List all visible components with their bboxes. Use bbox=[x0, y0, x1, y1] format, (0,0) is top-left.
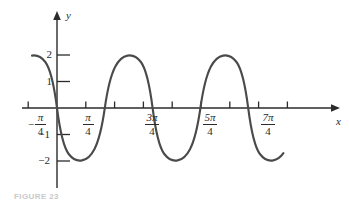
fraction-numerator: 3π bbox=[145, 112, 158, 124]
fraction-denominator: 4 bbox=[37, 125, 45, 137]
x-tick-label-pi-over-4: π 4 bbox=[76, 112, 100, 137]
y-axis-label: y bbox=[66, 10, 71, 21]
x-axis-arrow-icon bbox=[331, 104, 340, 112]
x-axis-major-ticks bbox=[28, 102, 258, 109]
x-axis-label: x bbox=[336, 116, 341, 127]
x-tick-label-7pi-over-4: 7π 4 bbox=[253, 112, 283, 137]
x-tick-label-5pi-over-4: 5π 4 bbox=[195, 112, 225, 137]
fraction-denominator: 4 bbox=[206, 125, 214, 137]
fraction-numerator: 7π bbox=[261, 112, 274, 124]
fraction: 7π 4 bbox=[261, 112, 274, 137]
x-tick-label-minus-pi-over-4: − π 4 bbox=[22, 112, 52, 137]
fraction-denominator: 4 bbox=[264, 125, 272, 137]
figure-caption: FIGURE 23 bbox=[14, 193, 59, 200]
fraction-numerator: 5π bbox=[203, 112, 216, 124]
figure-container: y x 2 1 −1 −2 − π 4 π 4 3π 4 5π 4 bbox=[0, 0, 349, 204]
x-tick-label-3pi-over-4: 3π 4 bbox=[137, 112, 167, 137]
fraction-numerator: π bbox=[84, 112, 92, 124]
fraction: π 4 bbox=[83, 112, 94, 137]
fraction-denominator: 4 bbox=[84, 125, 92, 137]
y-tick-label-2: 2 bbox=[30, 49, 52, 60]
y-tick-label-1: 1 bbox=[30, 76, 52, 87]
fraction: 3π 4 bbox=[145, 112, 158, 137]
fraction: 5π 4 bbox=[203, 112, 216, 137]
fraction: π 4 bbox=[35, 112, 46, 137]
minus-sign: − bbox=[28, 119, 34, 130]
fraction-denominator: 4 bbox=[148, 125, 156, 137]
y-axis-arrow-icon bbox=[53, 11, 61, 20]
y-tick-label-minus-2: −2 bbox=[28, 155, 50, 166]
fraction-numerator: π bbox=[37, 112, 45, 124]
graph-canvas bbox=[0, 0, 349, 204]
